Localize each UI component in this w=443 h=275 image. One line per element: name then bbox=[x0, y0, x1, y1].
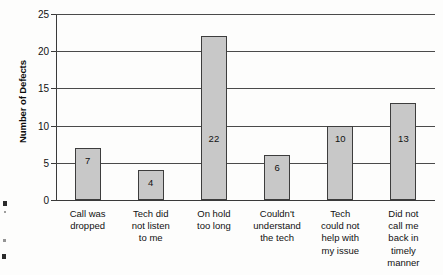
plot-area: 0510152025742261013 bbox=[56, 14, 435, 200]
scan-speckle bbox=[3, 239, 6, 242]
tick-mark bbox=[51, 88, 56, 89]
x-axis-category-label: Did notcall meback intimelymanner bbox=[372, 208, 435, 269]
x-axis-category-label: Techcould nothelp withmy issue bbox=[309, 208, 372, 257]
tick-mark bbox=[51, 163, 56, 164]
scan-speckle bbox=[4, 211, 6, 213]
x-axis-category-label-line: Did not bbox=[372, 208, 435, 220]
bar-value-label: 13 bbox=[391, 133, 415, 144]
gridline bbox=[56, 126, 435, 127]
y-axis-title: Number of Defects bbox=[17, 47, 28, 157]
x-axis-category-label: Call wasdropped bbox=[56, 208, 119, 232]
scan-speckle bbox=[3, 201, 7, 206]
bar: 6 bbox=[264, 155, 290, 200]
x-axis-category-label-line: Couldn't bbox=[246, 208, 309, 220]
tick-mark bbox=[51, 126, 56, 127]
bar-chart: Number of Defects 0510152025742261013 Ca… bbox=[0, 0, 443, 275]
bar: 10 bbox=[327, 126, 353, 200]
tick-mark bbox=[51, 14, 56, 15]
bar-value-label: 7 bbox=[76, 155, 100, 166]
x-axis-category-label-line: understand bbox=[246, 220, 309, 232]
x-axis-category-label-line: dropped bbox=[56, 220, 119, 232]
x-axis-category-label-line: to me bbox=[119, 232, 182, 244]
x-axis-category-label-line: timely bbox=[372, 245, 435, 257]
y-axis-tick-label: 15 bbox=[38, 83, 49, 94]
scan-speckle bbox=[2, 254, 6, 259]
tick-mark bbox=[51, 200, 56, 201]
bar-value-label: 6 bbox=[265, 162, 289, 173]
x-axis-category-label-line: manner bbox=[372, 257, 435, 269]
x-axis-category-label: On holdtoo long bbox=[182, 208, 245, 232]
bar-value-label: 4 bbox=[139, 177, 163, 188]
y-axis-tick-label: 0 bbox=[43, 195, 49, 206]
x-axis-category-label-line: help with bbox=[309, 232, 372, 244]
x-axis-category-label-line: my issue bbox=[309, 245, 372, 257]
y-axis-tick-label: 25 bbox=[38, 9, 49, 20]
gridline bbox=[56, 88, 435, 89]
gridline bbox=[56, 163, 435, 164]
x-axis-category-label-line: too long bbox=[182, 220, 245, 232]
bar-value-label: 22 bbox=[202, 133, 226, 144]
tick-mark bbox=[51, 51, 56, 52]
x-axis-category-label-line: Call was bbox=[56, 208, 119, 220]
gridline bbox=[56, 51, 435, 52]
bar: 13 bbox=[390, 103, 416, 200]
x-axis-category-label: Tech didnot listento me bbox=[119, 208, 182, 245]
y-axis-tick-label: 20 bbox=[38, 46, 49, 57]
x-axis-category-label-line: the tech bbox=[246, 232, 309, 244]
x-axis-category-label-line: could not bbox=[309, 220, 372, 232]
x-axis-category-label-line: back in bbox=[372, 232, 435, 244]
x-axis-category-label: Couldn'tunderstandthe tech bbox=[246, 208, 309, 245]
bar: 22 bbox=[201, 36, 227, 200]
x-axis-category-label-line: Tech did bbox=[119, 208, 182, 220]
x-axis-category-label-line: call me bbox=[372, 220, 435, 232]
bar: 7 bbox=[75, 148, 101, 200]
bar-value-label: 10 bbox=[328, 133, 352, 144]
x-axis-category-label-line: On hold bbox=[182, 208, 245, 220]
y-axis-tick-label: 10 bbox=[38, 120, 49, 131]
x-axis-category-label-line: not listen bbox=[119, 220, 182, 232]
gridline bbox=[56, 200, 435, 201]
bar: 4 bbox=[138, 170, 164, 200]
gridline bbox=[56, 14, 435, 15]
y-axis-tick-label: 5 bbox=[43, 157, 49, 168]
x-axis-category-label-line: Tech bbox=[309, 208, 372, 220]
